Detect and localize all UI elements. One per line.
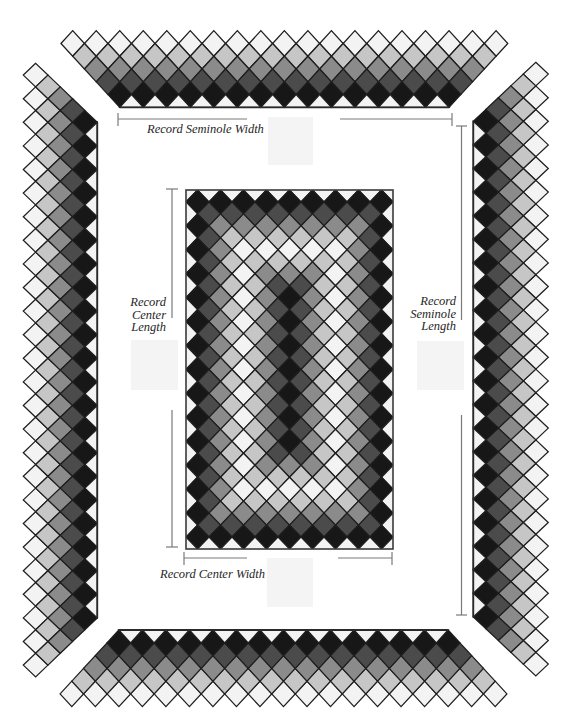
top-seminole-strip: [61, 31, 508, 108]
quilt-diagram-canvas: [0, 0, 572, 728]
placeholder-box: [131, 340, 178, 390]
left-seminole-strip: [23, 63, 97, 677]
record-seminole-width-label: Record Seminole Width: [147, 123, 264, 136]
bottom-seminole-strip: [60, 630, 507, 707]
center-panel: [175, 178, 405, 561]
right-seminole-strip: [473, 62, 548, 676]
placeholder-box: [268, 117, 313, 165]
center-panel-tiles: [175, 178, 405, 561]
record-seminole-length-label: Record Seminole Length: [385, 295, 456, 333]
record-center-length-label: Record Center Length: [96, 296, 166, 334]
label-line: Record: [96, 296, 166, 309]
placeholder-box: [267, 558, 313, 607]
record-center-width-label: Record Center Width: [160, 568, 265, 581]
quilt-layout-diagram: Record Seminole Width Record Center Widt…: [0, 0, 572, 728]
placeholder-box: [417, 341, 464, 390]
label-line: Record: [385, 295, 456, 308]
label-line: Length: [96, 321, 166, 334]
label-line: Length: [385, 320, 456, 333]
